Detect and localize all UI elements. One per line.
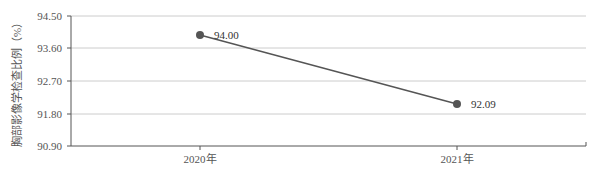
gridlines bbox=[71, 16, 586, 114]
data-point[interactable] bbox=[453, 100, 461, 108]
y-axis-title: 胸部影像学检查比例（%） bbox=[10, 17, 23, 147]
x-tick-label: 2020年 bbox=[184, 152, 217, 165]
data-label: 94.00 bbox=[214, 29, 239, 41]
y-tick-label: 90.90 bbox=[37, 140, 62, 152]
y-tick-label: 92.70 bbox=[37, 75, 62, 87]
y-tick-label: 94.50 bbox=[37, 10, 62, 22]
y-tick-label: 91.80 bbox=[37, 108, 62, 120]
series-line bbox=[200, 35, 457, 104]
data-point[interactable] bbox=[196, 31, 204, 39]
line-chart: 94.50 93.60 92.70 91.80 90.90 胸部影像学检查比例（… bbox=[0, 0, 596, 175]
y-tick-label: 93.60 bbox=[37, 42, 62, 54]
data-label: 92.09 bbox=[471, 98, 496, 110]
x-tick-label: 2021年 bbox=[441, 152, 474, 165]
